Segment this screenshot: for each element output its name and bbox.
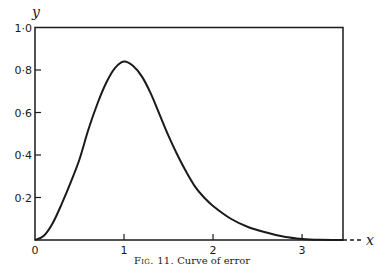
figure-caption: Fig. 11. Curve of error [0,255,384,266]
figure-title: Curve of error [177,255,250,266]
y-tick-label: 0·6 [15,107,33,120]
y-tick-label: 1·0 [15,22,33,35]
y-tick-label: 0·8 [15,64,33,77]
plot-frame [35,28,364,241]
y-axis-ticks: 0·20·40·60·81·0 [15,22,42,205]
plot-border [35,28,343,241]
figure-number: Fig. 11. [134,255,174,266]
error-curve [35,61,343,240]
x-axis-ticks: 0123 [32,234,306,257]
chart-plot: 0·20·40·60·81·0 0123 y x [0,0,384,271]
y-axis-label: y [31,4,41,20]
y-tick-label: 0·2 [15,192,33,205]
y-tick-label: 0·4 [15,149,33,162]
x-axis-label: x [366,232,374,248]
